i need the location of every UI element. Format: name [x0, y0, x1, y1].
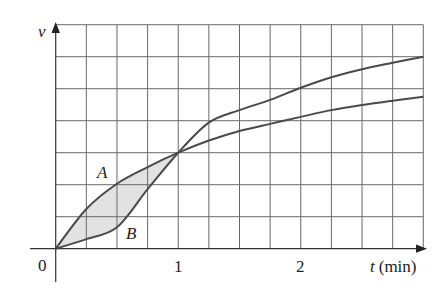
origin-label: 0 [38, 256, 47, 275]
x-axis-variable: t [370, 257, 376, 276]
x-tick-label-1: 1 [174, 257, 183, 276]
x-tick-label-2: 2 [296, 257, 305, 276]
curve-b-label: B [126, 224, 137, 243]
curve-a-label: A [96, 163, 108, 182]
x-axis-label: t(min) [370, 257, 417, 276]
y-axis-label: v [38, 22, 46, 41]
x-axis-unit: (min) [379, 257, 417, 276]
x-axis-arrow-icon [416, 245, 427, 253]
axes [30, 22, 427, 282]
velocity-time-chart: v 0 1 2 t(min) A B [0, 0, 446, 292]
y-axis-arrow-icon [52, 22, 60, 33]
